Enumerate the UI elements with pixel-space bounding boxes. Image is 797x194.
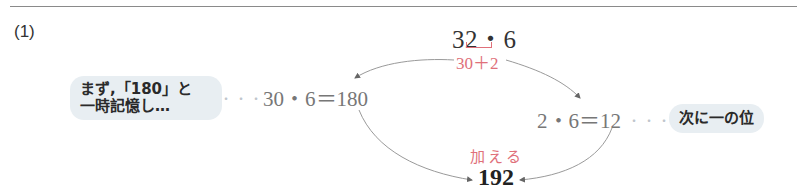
- arrow-to-ones: [506, 60, 580, 98]
- flow-arrows: [0, 0, 797, 194]
- arrow-ones-to-result: [520, 128, 612, 180]
- arrow-tens-to-result: [359, 110, 472, 180]
- arrow-to-tens: [355, 60, 454, 78]
